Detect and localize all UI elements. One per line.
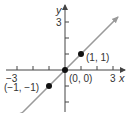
y-ticks bbox=[65, 22, 69, 102]
x-tick-label-3: 3 bbox=[110, 74, 116, 84]
line-y-equals-x bbox=[23, 17, 118, 112]
x-axis-label: x bbox=[119, 73, 125, 83]
point-label-one: (1, 1) bbox=[86, 53, 109, 63]
point-origin bbox=[62, 67, 68, 73]
point-one bbox=[78, 51, 84, 57]
y-axis-label: y bbox=[56, 5, 62, 15]
point-neg-one bbox=[46, 83, 52, 89]
point-label-neg-one: (−1, −1) bbox=[4, 83, 39, 93]
y-tick-label-3: 3 bbox=[56, 18, 62, 28]
point-label-origin: (0, 0) bbox=[69, 74, 92, 84]
